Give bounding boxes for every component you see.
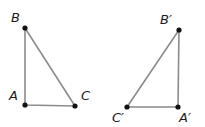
label-c: C [81, 88, 91, 103]
triangle-abc: B A C [8, 10, 91, 109]
triangle-abc-edges [25, 28, 75, 106]
label-a-prime: A′ [178, 110, 191, 125]
label-b: B [11, 10, 20, 25]
point-a [22, 102, 27, 107]
point-a-prime [175, 104, 180, 109]
triangle-a-prime-b-prime-c-prime: B′ C′ A′ [112, 12, 191, 125]
point-c [72, 103, 77, 108]
triangle-diagram: B A C B′ C′ A′ [0, 0, 205, 127]
triangle-prime-edges [127, 30, 179, 107]
label-b-prime: B′ [160, 12, 172, 27]
point-b-prime [176, 27, 181, 32]
point-c-prime [124, 104, 129, 109]
label-c-prime: C′ [112, 110, 124, 125]
label-a: A [8, 88, 18, 103]
point-b [22, 25, 27, 30]
